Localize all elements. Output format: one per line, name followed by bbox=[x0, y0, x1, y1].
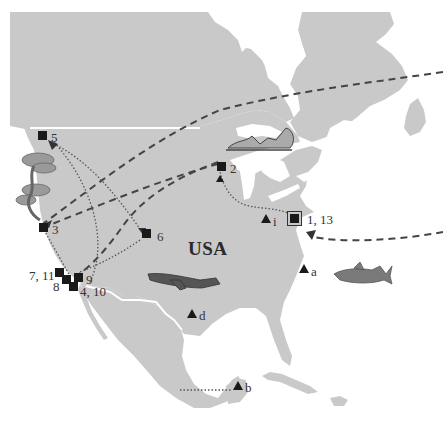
shark-illustration bbox=[334, 262, 392, 284]
triangle-label-a: a bbox=[311, 265, 317, 278]
site-label-5: 5 bbox=[51, 131, 58, 144]
route-atlantic-to-1 bbox=[310, 232, 443, 240]
site-label-9: 9 bbox=[86, 273, 93, 286]
site-label-3: 3 bbox=[52, 223, 59, 236]
triangle-marker-i[interactable] bbox=[261, 214, 271, 223]
site-label-8: 8 bbox=[53, 280, 60, 293]
hispaniola bbox=[330, 396, 348, 406]
site-marker-2[interactable] bbox=[217, 162, 226, 171]
site-label-2: 2 bbox=[230, 162, 237, 175]
cuba bbox=[262, 372, 318, 394]
north-america-map bbox=[0, 0, 443, 425]
triangle-label-d: d bbox=[199, 309, 206, 322]
triangle-marker-b[interactable] bbox=[233, 381, 243, 390]
country-label-usa: USA bbox=[188, 238, 228, 260]
site-label-7-11: 7, 11 bbox=[29, 269, 55, 282]
site-label-4-10: 4, 10 bbox=[80, 285, 106, 298]
site-marker-9[interactable] bbox=[74, 273, 83, 282]
triangle-label-b: b bbox=[245, 381, 252, 394]
land bbox=[10, 12, 426, 408]
triangle-marker-a[interactable] bbox=[299, 264, 309, 273]
site-marker-8[interactable] bbox=[62, 275, 71, 284]
site-marker-1-13[interactable] bbox=[287, 211, 302, 226]
triangle-marker-under-2 bbox=[216, 175, 224, 182]
arrowhead-icon bbox=[306, 230, 316, 240]
site-marker-3[interactable] bbox=[39, 223, 48, 232]
site-label-1-13: 1, 13 bbox=[307, 213, 333, 226]
triangle-marker-d[interactable] bbox=[187, 309, 197, 318]
triangle-label-i: i bbox=[273, 215, 277, 228]
newfoundland bbox=[404, 98, 426, 136]
site-marker-6[interactable] bbox=[142, 229, 151, 238]
site-label-6: 6 bbox=[157, 230, 164, 243]
site-marker-5[interactable] bbox=[38, 131, 47, 140]
